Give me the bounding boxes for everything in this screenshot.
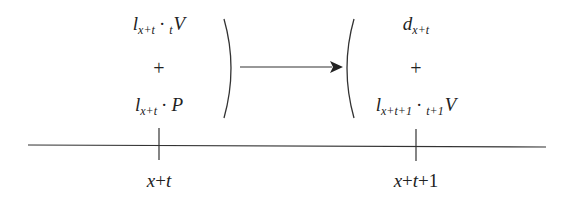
label-op: +1: [418, 170, 438, 191]
diagram-lines: [0, 0, 577, 200]
arrow-icon: [240, 61, 343, 73]
right-top-expression: dx+t: [403, 14, 429, 36]
left-plus: +: [153, 58, 164, 78]
symbol: V: [445, 94, 457, 115]
subscript: x+t+1: [381, 104, 412, 118]
right-bottom-expression: lx+t+1·t+1V: [376, 95, 457, 117]
operator: ·: [416, 94, 422, 115]
symbol: d: [403, 13, 413, 34]
timeline-label-2: x+t+1: [394, 171, 439, 190]
timeline-label-1: x+t: [147, 171, 171, 190]
symbol: P: [171, 94, 183, 115]
label-op: +: [402, 170, 413, 191]
left-top-expression: lx+t·tV: [133, 14, 185, 36]
subscript: x+t: [138, 23, 155, 37]
prescript: t: [169, 23, 172, 37]
left-bottom-expression: lx+t·P: [135, 95, 183, 117]
prescript: t+1: [426, 104, 443, 118]
subscript: x+t: [140, 104, 157, 118]
operator: ·: [159, 13, 165, 34]
label-op: +: [155, 170, 166, 191]
timeline-axis: [28, 145, 546, 147]
left-parenthesis: [347, 19, 354, 118]
right-plus: +: [410, 58, 421, 78]
operator: ·: [161, 94, 167, 115]
right-parenthesis: [224, 19, 231, 118]
label-var: t: [166, 170, 171, 191]
subscript: x+t: [412, 23, 429, 37]
symbol: V: [174, 13, 186, 34]
